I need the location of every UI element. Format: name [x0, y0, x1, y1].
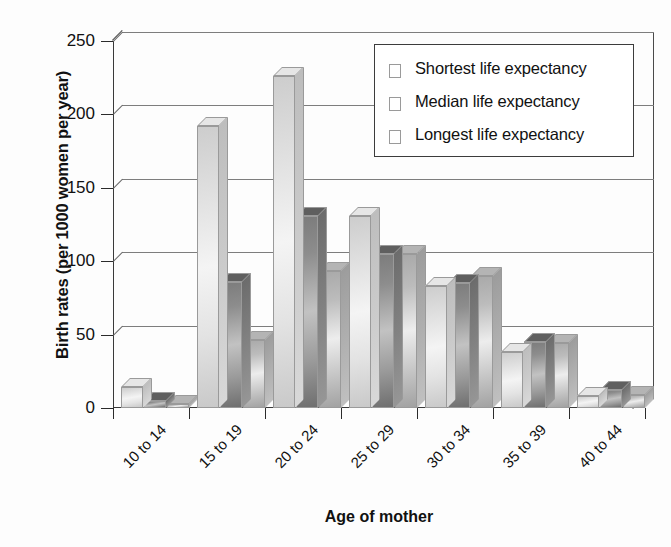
x-tick-mark — [341, 408, 342, 419]
legend-item-label: Longest life expectancy — [415, 125, 584, 144]
bar[interactable] — [197, 126, 219, 408]
bar[interactable] — [577, 396, 599, 408]
legend-swatch-icon — [389, 93, 406, 111]
x-tick-mark — [645, 408, 646, 419]
y-tick-label: 50 — [43, 326, 95, 343]
legend-item[interactable]: Longest life expectancy — [389, 118, 633, 151]
chart-legend: Shortest life expectancy Median life exp… — [374, 44, 634, 157]
y-tick-mark — [101, 335, 113, 336]
chart-page: Birth rates (per 1000 women per year) Ag… — [0, 0, 671, 547]
y-tick-label: 200 — [43, 105, 95, 122]
y-axis-title: Birth rates (per 1000 women per year) — [53, 20, 83, 410]
legend-swatch-icon — [389, 60, 406, 78]
x-tick-label: 10 to 14 — [119, 421, 169, 471]
legend-item-label: Median life expectancy — [415, 92, 580, 111]
x-tick-label: 20 to 24 — [271, 421, 321, 471]
x-tick-mark — [417, 408, 418, 419]
bar[interactable] — [121, 387, 143, 408]
x-tick-mark — [493, 408, 494, 419]
x-tick-mark — [189, 408, 190, 419]
bar[interactable] — [349, 216, 371, 408]
bar[interactable] — [273, 76, 295, 408]
x-tick-label: 35 to 39 — [499, 421, 549, 471]
x-axis-title: Age of mother — [113, 508, 645, 526]
legend-item[interactable]: Shortest life expectancy — [389, 52, 633, 85]
y-tick-label: 0 — [43, 399, 95, 416]
x-tick-label: 25 to 29 — [347, 421, 397, 471]
x-tick-mark — [569, 408, 570, 419]
y-tick-mark — [101, 188, 113, 189]
legend-item-label: Shortest life expectancy — [415, 59, 587, 78]
y-tick-label: 150 — [43, 179, 95, 196]
x-tick-label: 30 to 34 — [423, 421, 473, 471]
x-tick-mark — [113, 408, 114, 419]
y-axis-line — [113, 41, 114, 408]
y-tick-mark — [101, 41, 113, 42]
y-tick-label: 250 — [43, 32, 95, 49]
x-tick-label: 40 to 44 — [575, 421, 625, 471]
y-tick-mark — [101, 114, 113, 115]
bar[interactable] — [167, 404, 189, 408]
x-tick-mark — [265, 408, 266, 419]
y-tick-label: 100 — [43, 252, 95, 269]
bar[interactable] — [425, 286, 447, 408]
gridline — [122, 32, 654, 33]
legend-item[interactable]: Median life expectancy — [389, 85, 633, 118]
y-tick-mark — [101, 261, 113, 262]
y-tick-mark — [101, 408, 113, 409]
bar[interactable] — [501, 352, 523, 408]
x-tick-label: 15 to 19 — [195, 421, 245, 471]
legend-swatch-icon — [389, 126, 406, 144]
